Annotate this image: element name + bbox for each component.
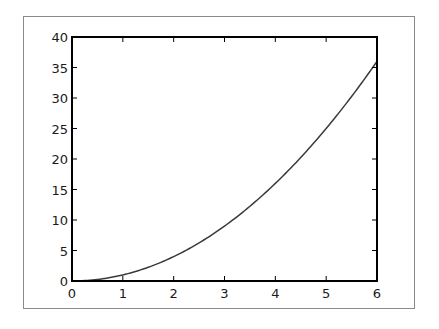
line-chart: 0123456 0510152025303540: [0, 0, 439, 329]
y-tick-label: 0: [60, 274, 68, 289]
y-tick-label: 20: [51, 152, 68, 167]
y-tick-label: 40: [51, 30, 68, 45]
x-tick-label: 2: [170, 286, 178, 301]
x-axis-tick-labels: 0123456: [68, 286, 381, 301]
y-tick-label: 15: [51, 183, 68, 198]
y-tick-label: 5: [60, 244, 68, 259]
x-tick-label: 4: [271, 286, 279, 301]
y-axis-tick-labels: 0510152025303540: [51, 30, 68, 289]
x-tick-label: 5: [322, 286, 330, 301]
x-tick-label: 3: [220, 286, 228, 301]
y-tick-label: 35: [51, 61, 68, 76]
y-tick-label: 30: [51, 91, 68, 106]
series-line: [72, 61, 377, 281]
y-tick-label: 10: [51, 213, 68, 228]
axes-frame: [72, 37, 377, 281]
axis-ticks: [72, 37, 377, 281]
y-tick-label: 25: [51, 122, 68, 137]
x-tick-label: 0: [68, 286, 76, 301]
series-curve: [72, 61, 377, 281]
x-tick-label: 1: [119, 286, 127, 301]
x-tick-label: 6: [373, 286, 381, 301]
